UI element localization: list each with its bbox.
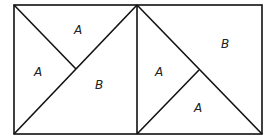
label-left-left: A <box>33 65 42 79</box>
label-right-b: B <box>221 37 229 51</box>
dissection-diagram: A A B B A A <box>0 0 275 139</box>
right-perpendicular <box>137 70 199 134</box>
label-right-bottom: A <box>193 101 202 115</box>
label-left-b: B <box>95 78 103 92</box>
label-left-top: A <box>73 23 82 37</box>
outer-rectangle <box>14 5 262 134</box>
left-perpendicular <box>14 5 76 69</box>
label-right-left: A <box>154 65 163 79</box>
